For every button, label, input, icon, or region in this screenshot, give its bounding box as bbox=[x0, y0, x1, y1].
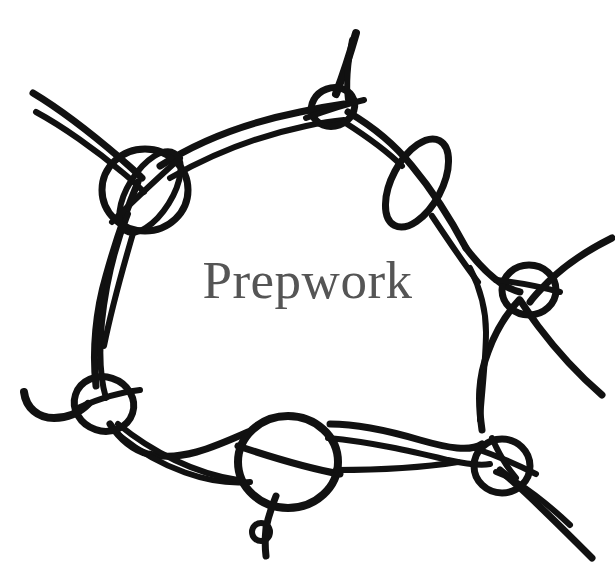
loose-end-upper-left-a bbox=[33, 93, 142, 178]
bottom-bead-chord bbox=[238, 446, 340, 474]
ring-strand-bottom-left bbox=[110, 424, 248, 456]
ring-strand-bottom-right bbox=[330, 424, 482, 448]
artwork-canvas: Prepwork bbox=[0, 0, 615, 586]
left-lower-bead-icon bbox=[67, 369, 141, 439]
loose-end-right-lower bbox=[520, 300, 602, 395]
page-title: Prepwork bbox=[0, 250, 615, 310]
wisp-bottom-to-right bbox=[336, 462, 458, 470]
